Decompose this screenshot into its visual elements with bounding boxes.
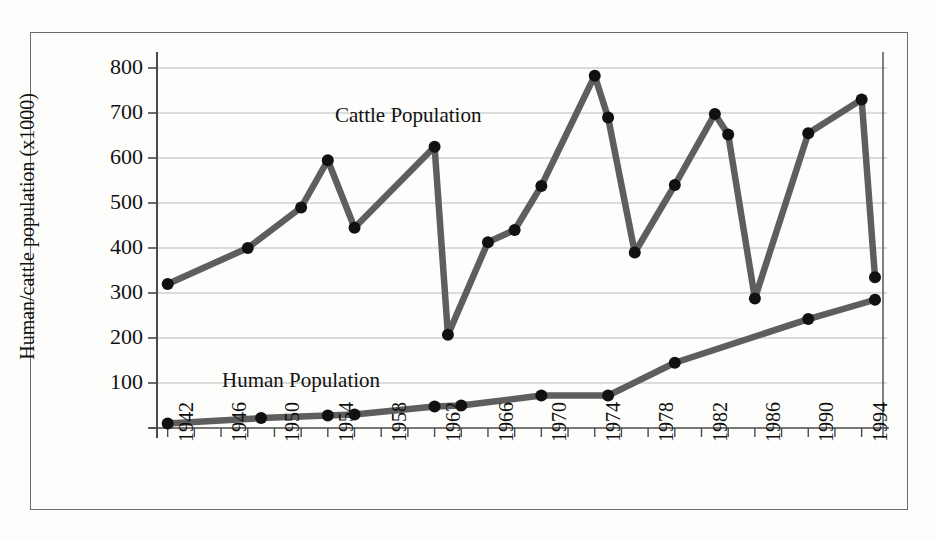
data-point-human-1949 [255,412,267,424]
data-point-human-1962 [429,400,441,412]
y-tick-label-300: 300 [79,281,143,303]
x-tick-label-1994: 1994 [870,402,890,442]
x-tick-label-1962: 1962 [443,402,463,442]
data-point-cattle-1966 [482,236,494,248]
data-point-human-1990 [802,313,814,325]
data-point-cattle-1994 [856,94,868,106]
data-point-cattle-1952 [295,202,307,214]
y-tick-label-700: 700 [79,101,143,123]
y-tick-label-800: 800 [79,56,143,78]
data-point-cattle-1995 [869,271,881,283]
x-tick-label-1974: 1974 [603,402,623,442]
data-point-cattle-1970 [535,180,547,192]
y-tick-label-400: 400 [79,236,143,258]
data-point-human-1954 [322,409,334,421]
x-tick-label-1942: 1942 [176,402,196,442]
x-tick-label-1954: 1954 [336,402,356,442]
y-tick-label-100: 100 [79,371,143,393]
x-tick-label-1966: 1966 [496,402,516,442]
data-point-cattle-1968 [509,224,521,236]
x-tick-label-1946: 1946 [229,402,249,442]
data-point-human-1975 [602,390,614,402]
x-tick-label-1990: 1990 [816,402,836,442]
data-point-cattle-1942 [162,278,174,290]
x-tick-label-1970: 1970 [549,402,569,442]
x-tick-label-1986: 1986 [763,402,783,442]
data-point-cattle-1948 [242,242,254,254]
data-point-cattle-1974 [589,70,601,82]
data-point-cattle-1963 [442,329,454,341]
data-point-cattle-1984 [722,129,734,141]
chart-plot-area [0,0,936,539]
data-point-cattle-1990 [802,127,814,139]
data-point-cattle-1986 [749,292,761,304]
data-point-human-1970 [535,390,547,402]
y-axis-title: Human/cattle population (x1000) [16,37,39,417]
x-tick-label-1982: 1982 [710,402,730,442]
data-point-cattle-1975 [602,112,614,124]
chart-figure: Human/cattle population (x1000) 10020030… [0,0,936,539]
y-tick-label-200: 200 [79,326,143,348]
x-tick-label-1950: 1950 [282,402,302,442]
y-tick-label-600: 600 [79,146,143,168]
data-point-cattle-1956 [349,222,361,234]
data-point-cattle-1954 [322,154,334,166]
series-line-cattle [168,76,875,335]
x-tick-label-1978: 1978 [656,402,676,442]
data-point-cattle-1962 [429,141,441,153]
series-cattle [162,70,881,341]
y-tick-label-500: 500 [79,191,143,213]
human-series-annotation: Human Population [222,368,380,393]
data-point-cattle-1977 [629,247,641,259]
data-point-human-1995 [869,294,881,306]
x-tick-label-1958: 1958 [389,402,409,442]
data-point-cattle-1983 [709,108,721,120]
data-point-human-1980 [669,357,681,369]
data-point-human-1942 [162,418,174,430]
cattle-series-annotation: Cattle Population [335,103,481,128]
data-point-cattle-1980 [669,179,681,191]
